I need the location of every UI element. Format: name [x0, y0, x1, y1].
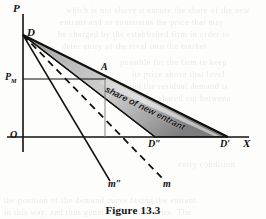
inner-demand-curve: [23, 35, 155, 137]
point-d-double-prime-label: D″: [148, 139, 161, 149]
figure-canvas: [0, 0, 266, 219]
point-d-label: D: [27, 27, 35, 38]
point-d-prime-label: D′: [220, 139, 230, 149]
x-axis-label: X: [243, 138, 250, 149]
curve-label-m: m: [163, 179, 171, 189]
point-a-label: A: [101, 62, 108, 72]
figure-caption: Figure 13.3: [0, 204, 266, 216]
point-pm-label: PM: [5, 72, 17, 84]
point-pm-subscript: M: [11, 77, 17, 84]
curve-label-m-double-prime: m″: [108, 179, 121, 189]
figure-13-3: which is not above it ensure the share o…: [0, 0, 266, 219]
origin-label: O: [10, 130, 17, 140]
y-axis-label: P: [13, 3, 20, 14]
